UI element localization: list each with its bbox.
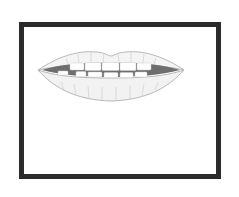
upper-teeth [70, 63, 151, 71]
lips-illustration [36, 44, 186, 104]
